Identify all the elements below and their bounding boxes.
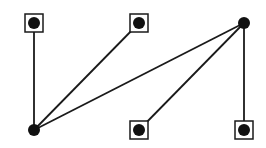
node-dot-C: [238, 17, 250, 29]
node-dot-B: [133, 17, 145, 29]
edges-group: [34, 23, 244, 130]
node-A: [25, 14, 43, 32]
node-E: [130, 121, 148, 139]
node-B: [130, 14, 148, 32]
node-C: [238, 17, 250, 29]
node-D: [28, 124, 40, 136]
graph-diagram: [0, 0, 266, 148]
edge-C-D: [34, 23, 244, 130]
node-dot-A: [28, 17, 40, 29]
node-dot-D: [28, 124, 40, 136]
node-dot-E: [133, 124, 145, 136]
node-dot-F: [238, 124, 250, 136]
edge-B-D: [34, 23, 139, 130]
edge-C-E: [139, 23, 244, 130]
node-F: [235, 121, 253, 139]
